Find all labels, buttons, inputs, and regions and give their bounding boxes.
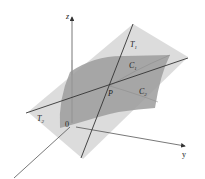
diagram-svg: z y 0 P T1 C1 C2 T2 [0, 0, 205, 179]
x-axis [14, 127, 70, 178]
z-axis-label: z [65, 12, 70, 21]
y-axis-label: y [182, 150, 186, 159]
point-p-label: P [107, 89, 113, 98]
tangent-plane-diagram: z y 0 P T1 C1 C2 T2 [0, 0, 205, 179]
origin-label: 0 [65, 120, 69, 129]
